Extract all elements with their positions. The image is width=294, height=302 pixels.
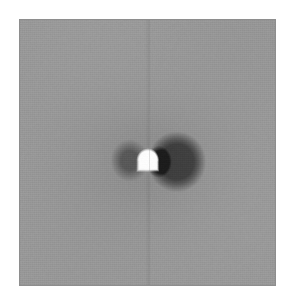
figure-page — [0, 0, 294, 302]
dipole-field-map-panel — [19, 19, 276, 286]
field-heatmap-canvas — [20, 20, 275, 285]
